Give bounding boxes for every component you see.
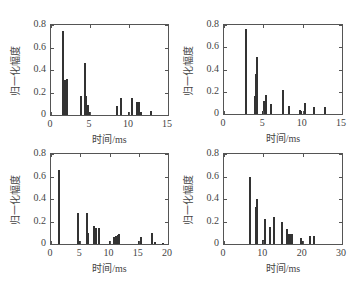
x-tick: [168, 112, 169, 115]
y-tick-label: 0.4: [24, 63, 46, 74]
x-tick: [263, 154, 264, 157]
y-tick-label: 0.4: [24, 192, 46, 203]
x-tick: [51, 25, 52, 28]
bar: [58, 170, 60, 244]
y-tick: [339, 177, 342, 178]
bar: [256, 57, 258, 114]
y-tick: [224, 47, 227, 48]
y-tick: [339, 222, 342, 223]
bar: [324, 107, 326, 114]
bar: [269, 227, 271, 244]
y-tick: [339, 70, 342, 71]
x-tick-label: 10: [116, 118, 140, 129]
bar: [273, 217, 275, 244]
y-tick: [51, 115, 54, 116]
bar: [140, 112, 142, 115]
x-tick: [129, 112, 130, 115]
bar: [162, 243, 164, 244]
bar: [265, 95, 267, 114]
x-tick: [168, 25, 169, 28]
y-tick: [339, 47, 342, 48]
bar: [288, 106, 290, 114]
x-tick-label: 0: [211, 117, 235, 128]
y-tick-label: 0.4: [197, 192, 219, 203]
x-tick: [342, 25, 343, 28]
x-tick-label: 5: [77, 118, 101, 129]
x-tick: [303, 241, 304, 244]
x-tick: [51, 154, 52, 157]
x-tick: [224, 111, 225, 114]
bar: [150, 111, 152, 116]
x-tick-label: 10: [97, 247, 121, 258]
x-tick-label: 15: [126, 247, 150, 258]
y-tick: [224, 222, 227, 223]
x-tick: [80, 154, 81, 157]
x-tick: [139, 241, 140, 244]
x-axis-label: 时间/ms: [243, 130, 323, 145]
y-tick: [165, 199, 168, 200]
x-tick-label: 15: [155, 118, 179, 129]
x-tick: [51, 112, 52, 115]
bar: [245, 29, 247, 114]
x-tick: [110, 154, 111, 157]
x-tick: [80, 241, 81, 244]
x-tick: [90, 112, 91, 115]
y-tick: [165, 222, 168, 223]
y-tick-label: 0.6: [24, 41, 46, 52]
y-tick: [165, 244, 168, 245]
y-tick-label: 0.8: [24, 147, 46, 158]
y-tick: [224, 114, 227, 115]
y-tick-label: 0.2: [24, 86, 46, 97]
y-tick-label: 0.6: [197, 170, 219, 181]
x-tick: [303, 111, 304, 114]
y-tick: [165, 70, 168, 71]
x-tick-label: 0: [211, 247, 235, 258]
x-axis-label: 时间/ms: [70, 131, 150, 146]
y-tick: [224, 199, 227, 200]
x-tick: [342, 154, 343, 157]
x-tick: [224, 241, 225, 244]
y-tick: [224, 70, 227, 71]
x-tick-label: 10: [290, 117, 314, 128]
plot-area: [50, 24, 169, 116]
x-tick: [224, 25, 225, 28]
bar: [87, 233, 89, 244]
y-tick: [51, 244, 54, 245]
bar: [249, 177, 251, 245]
x-tick: [129, 25, 130, 28]
x-tick: [342, 241, 343, 244]
y-tick: [224, 177, 227, 178]
y-tick-label: 0.4: [197, 63, 219, 74]
y-tick: [339, 199, 342, 200]
x-tick: [110, 241, 111, 244]
x-tick: [263, 25, 264, 28]
x-tick: [139, 154, 140, 157]
y-tick: [51, 48, 54, 49]
y-tick: [165, 48, 168, 49]
x-tick-label: 0: [38, 118, 62, 129]
x-tick: [168, 241, 169, 244]
bar: [120, 98, 122, 115]
bar: [95, 228, 97, 244]
y-tick: [165, 115, 168, 116]
y-tick-label: 0.6: [24, 170, 46, 181]
y-tick: [51, 177, 54, 178]
bar: [80, 96, 82, 115]
bar: [270, 104, 272, 114]
y-tick: [165, 93, 168, 94]
bar: [256, 199, 258, 244]
x-tick-label: 5: [250, 117, 274, 128]
x-tick-label: 15: [329, 117, 353, 128]
y-tick: [51, 222, 54, 223]
plot-area: [50, 153, 169, 245]
x-tick: [51, 241, 52, 244]
bar: [282, 90, 284, 114]
x-tick: [263, 241, 264, 244]
x-tick-label: 5: [67, 247, 91, 258]
bar: [151, 233, 153, 244]
y-tick-label: 0.8: [197, 147, 219, 158]
y-tick-label: 0.2: [197, 215, 219, 226]
x-tick: [263, 111, 264, 114]
bar: [66, 79, 68, 115]
bar: [313, 236, 315, 244]
